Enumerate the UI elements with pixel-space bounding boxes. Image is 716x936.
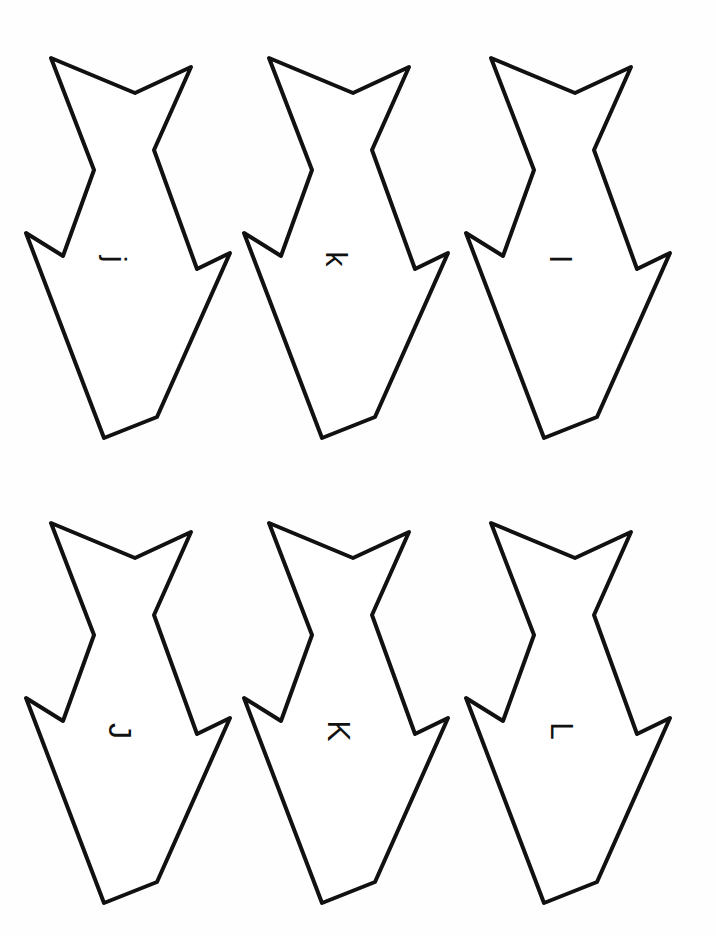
fish-outline-icon — [440, 0, 700, 460]
fish-outline-icon — [440, 465, 700, 925]
fish-cutout-l-lower: l — [440, 0, 700, 420]
fish-letter: k — [321, 252, 351, 267]
fish-letter: l — [545, 256, 575, 263]
fish-letter: J — [104, 723, 136, 739]
fish-letter: j — [100, 256, 130, 263]
fish-cutout-l-upper: L — [440, 465, 700, 885]
worksheet-page: j k l J K L — [0, 0, 716, 936]
fish-letter: K — [323, 720, 355, 741]
fish-cutout-k-upper: K — [218, 465, 478, 885]
fish-letter: L — [546, 722, 578, 740]
fish-outline-icon — [218, 465, 478, 925]
fish-outline-icon — [218, 0, 478, 460]
fish-cutout-k-lower: k — [218, 0, 478, 420]
